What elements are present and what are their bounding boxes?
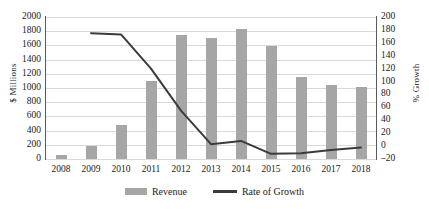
y-axis-left-tick-label: 1600 (11, 40, 41, 50)
y-axis-right-tick-label: 100 (381, 77, 411, 87)
y-axis-right-line (376, 16, 377, 160)
y-axis-left-tick-label: 1200 (11, 69, 41, 79)
y-axis-right-tick-label: –20 (381, 154, 411, 164)
gridline (46, 159, 376, 160)
x-axis-tick-label: 2010 (104, 165, 138, 175)
revenue-growth-chart: $ Millions % Growth 02004006008001000120… (0, 0, 429, 212)
legend-label-rate-of-growth: Rate of Growth (242, 186, 304, 197)
y-axis-right-tick-label: 40 (381, 115, 411, 125)
x-axis-tick-label: 2013 (194, 165, 228, 175)
y-axis-right-tick-label: 140 (381, 51, 411, 61)
y-axis-right-tick-label: 60 (381, 102, 411, 112)
y-axis-right-tick-label: 160 (381, 38, 411, 48)
y-axis-left-tick-label: 0 (11, 154, 41, 164)
y-axis-left-tick-label: 800 (11, 97, 41, 107)
y-axis-left-tick-label: 2000 (11, 12, 41, 22)
x-axis-tick-label: 2018 (344, 165, 378, 175)
x-axis-tick-label: 2008 (44, 165, 78, 175)
legend-bar-swatch-icon (125, 188, 147, 195)
x-axis-tick-label: 2011 (134, 165, 168, 175)
y-axis-right-tick-label: 200 (381, 12, 411, 22)
y-axis-right-tick-label: 0 (381, 141, 411, 151)
y-axis-left-tick-label: 400 (11, 126, 41, 136)
legend-label-revenue: Revenue (152, 186, 187, 197)
x-axis-tick-label: 2012 (164, 165, 198, 175)
y-axis-right-tick-label: 180 (381, 25, 411, 35)
y-axis-left-tick-label: 200 (11, 140, 41, 150)
y-axis-left-tick-label: 1400 (11, 55, 41, 65)
y-axis-left-tick-label: 1000 (11, 83, 41, 93)
y-axis-right-tick-label: 80 (381, 89, 411, 99)
plot-area (46, 17, 376, 159)
x-axis-tick-label: 2016 (284, 165, 318, 175)
x-axis-tick-label: 2017 (314, 165, 348, 175)
legend-item-revenue: Revenue (125, 186, 187, 197)
y-axis-left-tick-label: 1800 (11, 26, 41, 36)
y-axis-right-tick-label: 120 (381, 64, 411, 74)
x-axis-tick-label: 2014 (224, 165, 258, 175)
y-axis-left-tick-label: 600 (11, 111, 41, 121)
y-axis-right-title: % Growth (411, 48, 421, 118)
x-axis-tick-label: 2009 (74, 165, 108, 175)
legend-item-rate-of-growth: Rate of Growth (213, 186, 304, 197)
x-axis-tick-label: 2015 (254, 165, 288, 175)
legend-line-swatch-icon (213, 190, 237, 193)
line-series-rate-of-growth (46, 17, 376, 159)
y-axis-right-tick-label: 20 (381, 128, 411, 138)
chart-legend: Revenue Rate of Growth (0, 186, 429, 197)
